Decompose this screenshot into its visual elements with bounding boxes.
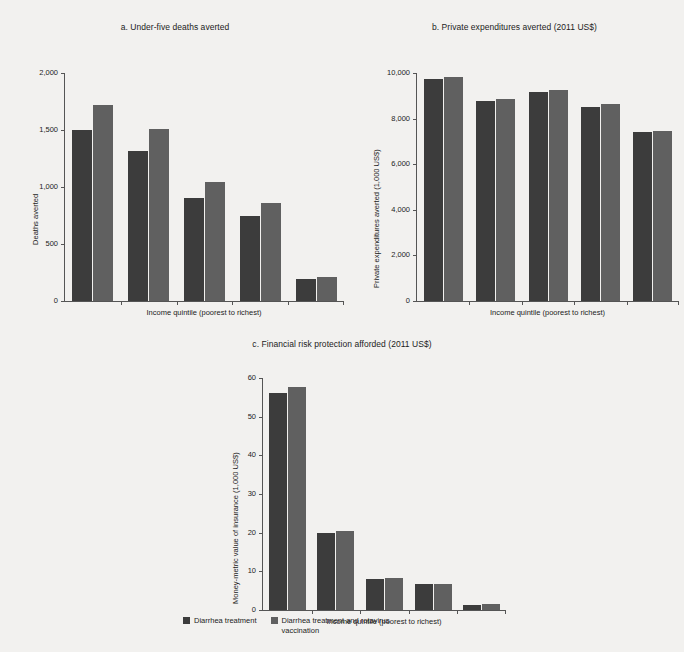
panel-b-plot: Private expenditures averted (1,000 US$)… [345,40,684,308]
legend-item-diarrhea-treatment: Diarrhea treatment [183,616,257,626]
bar [601,104,620,301]
bar [444,77,463,301]
panel-a-bars [65,73,344,301]
y-tick-label: 500 [16,239,58,248]
bar [424,79,443,301]
bar [581,107,600,301]
legend-swatch-diarrhea-treatment [183,617,190,624]
panel-c-x-axis-line [262,610,506,611]
panel-b-title: b. Private expenditures averted (2011 US… [345,22,684,32]
panel-b-x-axis-line [416,301,679,302]
bar [261,203,281,301]
x-tick-mark [522,302,523,305]
x-tick-mark [457,611,458,614]
x-tick-mark [469,302,470,305]
panel-b-y-axis-label: Private expenditures averted (1,000 US$) [372,149,381,288]
panel-a-y-axis-label: Deaths averted [31,194,40,245]
bar [366,579,384,610]
x-tick-mark [312,611,313,614]
y-tick-label: 1,000 [16,182,58,191]
bar [653,131,672,301]
bar [385,578,403,610]
x-tick-mark [343,302,344,305]
y-tick-label: 10,000 [368,68,410,77]
y-tick-label: 50 [214,412,256,421]
y-tick-label: 20 [214,528,256,537]
y-tick-label: 60 [214,373,256,382]
legend-item-diarrhea-treatment-and-rotavirus: Diarrhea treatment and rotavirus vaccina… [271,616,404,636]
legend-label-diarrhea-treatment-and-rotavirus: Diarrhea treatment and rotavirus vaccina… [282,616,404,636]
bar [240,216,260,302]
bar [317,533,335,610]
y-tick-label: 2,000 [368,250,410,259]
bar [463,605,481,610]
panel-b-bars [417,73,679,301]
bar [184,198,204,301]
x-tick-mark [505,611,506,614]
legend: Diarrhea treatment Diarrhea treatment an… [183,616,503,636]
bar [72,130,92,301]
panel-c-financial-risk-protection: c. Financial risk protection afforded (2… [172,336,512,616]
y-tick-label: 0 [214,605,256,614]
y-tick-label: 10 [214,566,256,575]
bar [288,387,306,610]
panel-c-plot: Money-metric value of insurance (1,000 U… [172,356,512,616]
panel-b-private-expenditures-averted: b. Private expenditures averted (2011 US… [345,18,684,308]
panel-b-x-axis-label: Income quintile (poorest to richest) [416,308,679,317]
bar [205,182,225,301]
y-tick-label: 30 [214,489,256,498]
x-tick-mark [574,302,575,305]
bar [317,277,337,302]
bar [128,151,148,301]
bar [336,531,354,610]
bar [296,279,316,301]
x-tick-mark [360,611,361,614]
y-tick-label: 40 [214,450,256,459]
x-tick-mark [409,611,410,614]
bar [549,90,568,301]
legend-label-diarrhea-treatment: Diarrhea treatment [194,616,257,626]
x-tick-mark [232,302,233,305]
panel-a-x-axis-label: Income quintile (poorest to richest) [64,308,344,317]
y-tick-label: 6,000 [368,159,410,168]
legend-swatch-diarrhea-treatment-and-rotavirus [271,617,278,624]
x-tick-mark [288,302,289,305]
bar [93,105,113,301]
x-tick-mark [177,302,178,305]
x-tick-mark [627,302,628,305]
y-tick-label: 0 [16,296,58,305]
bar [633,132,652,301]
panel-c-bars [263,378,506,610]
y-tick-label: 1,500 [16,125,58,134]
bar [482,604,500,610]
x-tick-mark [678,302,679,305]
panel-c-title: c. Financial risk protection afforded (2… [172,339,512,349]
y-tick-label: 2,000 [16,68,58,77]
panel-a-plot: Deaths averted 05001,0001,5002,000 Incom… [0,40,350,308]
bar [529,92,548,301]
y-tick-label: 0 [368,296,410,305]
y-tick-label: 4,000 [368,205,410,214]
x-tick-mark [121,302,122,305]
panel-a-x-axis-line [64,301,344,302]
bar [269,393,287,610]
bar [496,99,515,301]
panel-a-under-five-deaths-averted: a. Under-five deaths averted Deaths aver… [0,18,350,308]
bar [434,584,452,610]
panel-a-title: a. Under-five deaths averted [0,22,350,32]
bar [476,101,495,301]
y-tick-label: 8,000 [368,114,410,123]
bar [415,584,433,610]
bar [149,129,169,301]
